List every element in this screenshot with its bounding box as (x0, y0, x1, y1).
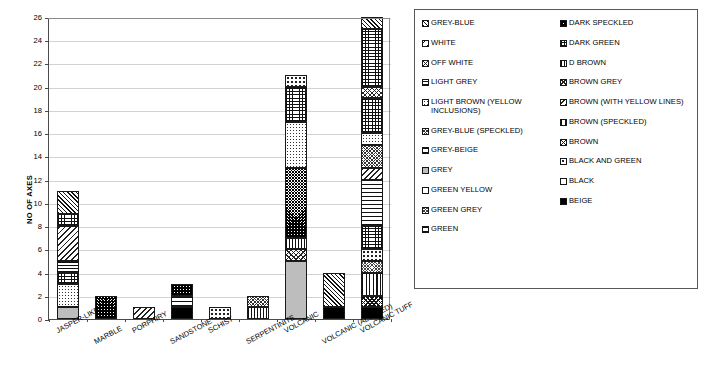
legend-item[interactable]: GREY-BLUE (SPECKLED) (422, 127, 554, 136)
legend-item[interactable]: GREEN GREY (422, 206, 554, 215)
bar[interactable] (57, 191, 79, 319)
legend-label: WHITE (431, 39, 456, 48)
legend-item[interactable]: BROWN (560, 138, 692, 147)
y-tick-mark (45, 181, 49, 182)
bar-segment[interactable] (57, 226, 79, 261)
bar-segment[interactable] (361, 29, 383, 87)
legend-item[interactable]: BLACK (560, 177, 692, 186)
y-tick-mark (45, 88, 49, 89)
bar-segment[interactable] (285, 168, 307, 238)
legend-item[interactable]: DARK SPECKLED (560, 19, 692, 28)
legend-item[interactable]: BROWN GREY (560, 78, 692, 87)
bar-segment[interactable] (57, 273, 79, 285)
bar-segment[interactable] (171, 296, 193, 308)
bar-segment[interactable] (361, 261, 383, 273)
legend-label: OFF WHITE (431, 59, 473, 68)
y-axis-title: NO OF AXES (25, 155, 34, 245)
bar-segment[interactable] (285, 87, 307, 122)
legend-item[interactable]: LIGHT BROWN (YELLOW INCLUSIONS) (422, 98, 554, 115)
bar-segment[interactable] (57, 284, 79, 307)
legend-swatch-icon (560, 99, 567, 106)
legend-swatch-icon (422, 167, 429, 174)
bar[interactable] (361, 17, 383, 319)
legend-label: LIGHT GREY (431, 78, 477, 87)
gridline (49, 181, 391, 182)
gridline (49, 250, 391, 251)
y-tick-label: 16 (34, 130, 42, 138)
bar[interactable] (95, 296, 117, 319)
legend-item[interactable]: BLACK AND GREEN (560, 157, 692, 166)
chart-page: NO OF AXES 02468101214161820222426 JASPE… (0, 0, 705, 389)
bar-segment[interactable] (285, 75, 307, 87)
stacked-bar-chart: NO OF AXES 02468101214161820222426 JASPE… (0, 0, 410, 389)
legend-item[interactable]: WHITE (422, 39, 554, 48)
y-tick-mark (45, 297, 49, 298)
bar[interactable] (247, 296, 269, 319)
bar-segment[interactable] (361, 226, 383, 249)
legend-item[interactable]: OFF WHITE (422, 59, 554, 68)
legend-item[interactable]: GREEN YELLOW (422, 186, 554, 195)
legend-item[interactable]: GREY-BLUE (422, 19, 554, 28)
bar-segment[interactable] (285, 122, 307, 168)
y-tick-label: 26 (34, 14, 42, 22)
gridline (49, 111, 391, 112)
y-tick-mark (45, 157, 49, 158)
bar-segment[interactable] (171, 307, 193, 319)
x-axis-label: SANDSTONE (169, 317, 213, 345)
bar-segment[interactable] (361, 249, 383, 261)
bar-segment[interactable] (95, 296, 117, 319)
legend-item[interactable]: BROWN (SPECKLED) (560, 118, 692, 127)
legend-swatch-icon (560, 20, 567, 27)
legend-label: DARK SPECKLED (569, 19, 633, 28)
legend-swatch-icon (560, 60, 567, 67)
plot-right-border (389, 18, 390, 320)
legend-swatch-icon (422, 207, 429, 214)
bar-segment[interactable] (361, 145, 383, 168)
legend-label: BROWN (569, 138, 598, 147)
legend-swatch-icon (560, 178, 567, 185)
legend-label: BROWN (WITH YELLOW LINES) (569, 98, 684, 107)
legend-label: BLACK AND GREEN (569, 157, 642, 166)
legend-item[interactable]: DARK GREEN (560, 39, 692, 48)
legend-label: BROWN (SPECKLED) (569, 118, 647, 127)
plot-area: 02468101214161820222426 (48, 18, 390, 320)
bar-segment[interactable] (247, 296, 269, 308)
bar-segment[interactable] (361, 87, 383, 99)
bar-segment[interactable] (361, 168, 383, 180)
y-tick-mark (45, 204, 49, 205)
legend-item[interactable]: GREY (422, 166, 554, 175)
gridline (49, 64, 391, 65)
bar-segment[interactable] (361, 180, 383, 226)
bar-segment[interactable] (57, 191, 79, 214)
legend-item[interactable]: BROWN (WITH YELLOW LINES) (560, 98, 692, 107)
legend-swatch-icon (422, 20, 429, 27)
bar-segment[interactable] (323, 273, 345, 308)
bar-segment[interactable] (361, 133, 383, 145)
y-tick-label: 18 (34, 107, 42, 115)
y-tick-label: 14 (34, 154, 42, 162)
bar-segment[interactable] (361, 273, 383, 296)
legend-item[interactable]: LIGHT GREY (422, 78, 554, 87)
bar-segment[interactable] (171, 284, 193, 296)
legend-swatch-icon (560, 40, 567, 47)
bar-segment[interactable] (285, 249, 307, 261)
legend-item[interactable]: GREY-BEIGE (422, 146, 554, 155)
bar-segment[interactable] (323, 307, 345, 319)
bar-segment[interactable] (361, 98, 383, 133)
bar-segment[interactable] (57, 261, 79, 273)
legend-label: GREY-BLUE (431, 19, 475, 28)
bar-segment[interactable] (57, 214, 79, 226)
bar[interactable] (285, 75, 307, 319)
bar-segment[interactable] (285, 238, 307, 250)
bar-segment[interactable] (285, 261, 307, 319)
bar-segment[interactable] (247, 307, 269, 319)
bar[interactable] (171, 284, 193, 319)
legend-item[interactable]: D BROWN (560, 59, 692, 68)
legend-label: GREEN (431, 225, 458, 234)
y-tick-label: 8 (38, 223, 42, 231)
legend-item[interactable]: GREEN (422, 225, 554, 234)
legend-swatch-icon (560, 119, 567, 126)
legend-item[interactable]: BEIGE (560, 197, 692, 206)
bar[interactable] (323, 273, 345, 319)
y-tick-label: 20 (34, 84, 42, 92)
